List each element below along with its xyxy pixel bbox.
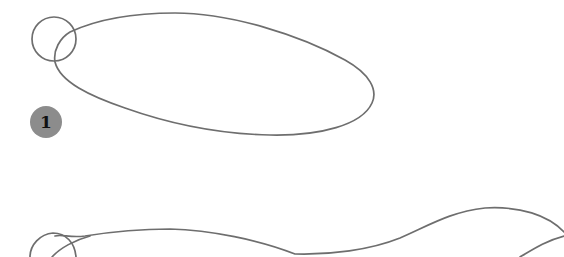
step-number-badge: 1 <box>30 106 62 138</box>
neck-line-bottom <box>52 236 90 257</box>
tail-curve-bottom <box>520 236 564 257</box>
sketch-canvas <box>0 0 564 257</box>
body-ellipse-top <box>55 13 374 135</box>
body-contour-bottom <box>55 208 564 254</box>
step-number-label: 1 <box>40 114 52 131</box>
